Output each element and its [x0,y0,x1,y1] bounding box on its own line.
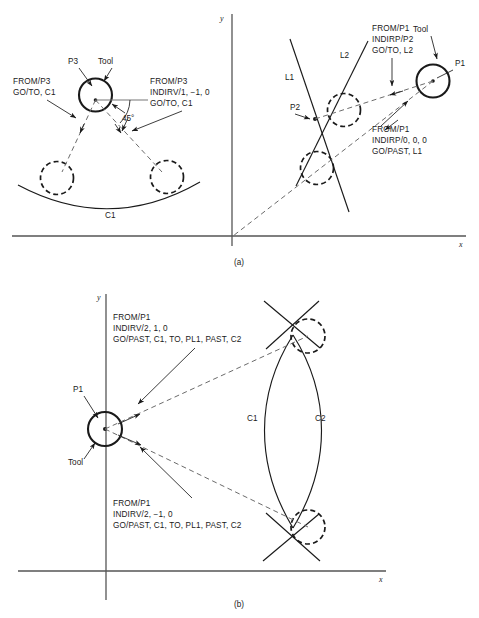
motion-arrow-upper-b [118,414,140,424]
point-p2-leader [295,114,310,119]
point-p2-label: P2 [290,103,300,112]
panel-a: y x C1 [12,14,466,267]
code-line-1: FROM/P1 [372,24,410,33]
tool-label-b: Tool [68,458,83,467]
code-block-top-leader-b [138,348,195,404]
tool-leader-a [104,68,112,81]
code-block-from-p1-indirp-origin-gopast-l1: FROM/P1 INDIRP/0, 0, 0 GO/PAST, L1 [372,125,427,156]
curve-c2-b [293,335,322,528]
panel-a-x-axis-label: x [458,240,463,249]
line-l1 [290,39,349,212]
code-line-2: INDIRP/P2 [372,35,414,44]
point-p3-label: P3 [68,57,78,66]
code-line-3: GO/PAST, C1, TO, PL1, PAST, C2 [113,335,242,344]
panel-a-left-scene: C1 45° P3 [13,57,210,220]
point-p1-label-a: P1 [455,59,465,68]
code-block-from-p1-indirv-2-1-0: FROM/P1 INDIRV/2, 1, 0 GO/PAST, C1, TO, … [113,313,242,344]
intersection-stroke-lower-a [263,514,319,561]
tool-label-a-right: Tool [413,25,428,34]
angle-label-45: 45° [122,114,134,123]
caption-b: (b) [234,600,244,609]
figure-container: y x C1 [0,0,479,618]
code-line-1: FROM/P3 [13,77,51,86]
motion-vector-indirv-2-1-0 [105,336,308,429]
code-line-1: FROM/P1 [372,125,410,134]
motion-vector-indirv-goto-c1 [96,100,163,172]
motion-vector-gopast-l1 [233,81,433,236]
curve-c1-label-b: C1 [247,414,258,423]
code-line-3: GO/TO, C1 [150,99,193,108]
code-line-3: GO/TO, L2 [372,46,414,55]
code-line-1: FROM/P3 [150,77,188,86]
code-block-from-p3-goto-c1: FROM/P3 GO/TO, C1 [13,77,56,97]
ghost-tool-left-a [41,162,74,195]
panel-b: y x C1 C2 P1 Tool [18,293,386,609]
curve-c1-a [18,182,200,209]
code-block-right-leader-a [132,111,182,131]
tool-leader-b [84,443,95,459]
motion-arrow-left-a [80,124,84,133]
tool-leader-a-right [431,36,437,59]
motion-vector-goto-c1 [62,100,96,172]
code-line-2: INDIRV/2, −1, 0 [113,510,173,519]
motion-arrow-l2 [390,91,403,95]
panel-a-right-scene: L1 L2 P1 Tool P2 [233,24,465,236]
code-block-from-p1-indirp-p2-goto-l2: FROM/P1 INDIRP/P2 GO/TO, L2 [372,24,414,55]
motion-arrow-right-a [115,124,121,133]
panel-a-y-axis-label: y [219,14,224,23]
code-block-from-p3-indirv-goto-c1: FROM/P3 INDIRV/1, −1, 0 GO/TO, C1 [150,77,210,108]
code-block-left-leader-a [47,100,76,118]
curve-c2-label-b: C2 [315,414,326,423]
code-line-2: INDIRV/1, −1, 0 [150,88,210,97]
curve-c1-label-a: C1 [105,211,116,220]
curve-c1-b [265,335,294,528]
line-l2-label: L2 [340,51,350,60]
code-line-2: INDIRV/2, 1, 0 [113,324,168,333]
motion-arrow-lower-b [118,435,141,445]
code-line-1: FROM/P1 [113,313,151,322]
caption-a: (a) [234,258,244,267]
tool-label-a: Tool [98,57,113,66]
code-line-2: GO/TO, C1 [13,88,56,97]
point-p3-leader [79,68,92,86]
point-p1-leader-b [84,396,98,418]
code-line-3: GO/PAST, C1, TO, PL1, PAST, C2 [113,521,242,530]
intersection-stroke-upper-b [266,301,319,349]
line-l1-label: L1 [285,73,295,82]
code-block-bottom-leader-b [140,447,192,498]
panel-b-x-axis-label: x [378,575,383,584]
point-p1-label-b: P1 [73,385,83,394]
code-block-from-p1-indirv-2-minus1-0: FROM/P1 INDIRV/2, −1, 0 GO/PAST, C1, TO,… [113,499,242,530]
panel-b-y-axis-label: y [96,293,101,302]
code-line-2: INDIRP/0, 0, 0 [372,136,427,145]
code-line-3: GO/PAST, L1 [372,147,422,156]
code-line-1: FROM/P1 [113,499,151,508]
angle-arrow-upper [112,104,125,113]
motion-vector-goto-l2 [315,81,433,119]
figure-svg: y x C1 [0,0,479,618]
tool-circle-p3 [79,79,112,112]
